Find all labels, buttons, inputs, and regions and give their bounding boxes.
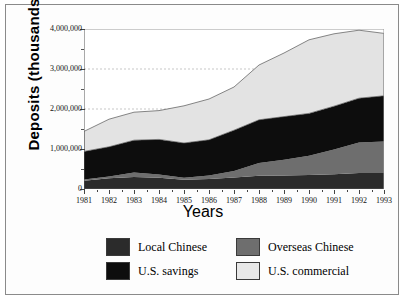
y-tick-minor [81,129,84,130]
x-tick-minor [247,190,248,192]
legend-swatch-icon [236,262,260,280]
x-tick-mark [284,190,285,194]
x-tick-mark [209,190,210,194]
legend-swatch-icon [106,238,130,256]
x-tick-mark [84,190,85,194]
y-tick-label: 3,000,000 [50,64,82,73]
y-tick-label: 1,000,000 [50,144,82,153]
x-tick-minor [172,190,173,192]
x-tick-minor [147,190,148,192]
x-tick-mark [184,190,185,194]
legend-label: Local Chinese [138,240,207,255]
legend-row: Local Chinese Overseas Chinese [106,238,366,256]
plot-area: 4,000,0003,000,0002,000,0001,000,0000 [84,29,384,189]
legend-label: Overseas Chinese [268,240,354,255]
x-tick-mark [259,190,260,194]
x-axis-title: Years [6,203,400,221]
x-tick-mark [234,190,235,194]
x-tick-minor [272,190,273,192]
legend-swatch-icon [236,238,260,256]
legend-swatch-icon [106,262,130,280]
y-tick-label: 4,000,000 [50,24,82,33]
x-tick-mark [134,190,135,194]
x-tick-minor [197,190,198,192]
legend-item-local-chinese: Local Chinese [106,238,236,256]
legend-item-us-savings: U.S. savings [106,262,236,280]
x-tick-minor [297,190,298,192]
chart-frame: Deposits (thousands US$) 4,000,0003,000,… [5,4,399,295]
x-tick-minor [97,190,98,192]
y-tick-label: 2,000,000 [50,104,82,113]
legend-item-us-commercial: U.S. commercial [236,262,366,280]
x-tick-minor [322,190,323,192]
chart-legend: Local Chinese Overseas Chinese U.S. savi… [106,238,366,286]
x-tick-minor [347,190,348,192]
y-tick-minor [81,49,84,50]
x-tick-mark [334,190,335,194]
x-tick-minor [222,190,223,192]
area-chart-svg [84,29,384,189]
legend-label: U.S. commercial [268,264,349,279]
y-tick-minor [81,89,84,90]
x-tick-mark [159,190,160,194]
legend-item-overseas-chinese: Overseas Chinese [236,238,366,256]
y-axis-title: Deposits (thousands US$) [25,0,42,151]
x-tick-mark [359,190,360,194]
y-tick-minor [81,169,84,170]
legend-label: U.S. savings [138,264,198,279]
x-tick-mark [109,190,110,194]
x-tick-mark [384,190,385,194]
legend-row: U.S. savings U.S. commercial [106,262,366,280]
x-tick-minor [122,190,123,192]
x-tick-mark [309,190,310,194]
x-tick-minor [372,190,373,192]
y-tick-label: 0 [78,184,82,193]
